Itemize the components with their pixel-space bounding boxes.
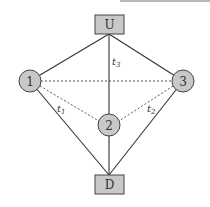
node-3: 3 <box>172 70 194 92</box>
edge-u-3 <box>109 34 183 81</box>
node-1-label: 1 <box>26 75 34 89</box>
solid-edges <box>30 34 183 175</box>
node-1: 1 <box>19 70 41 92</box>
node-2: 2 <box>98 114 120 136</box>
edge-u-1 <box>30 34 109 81</box>
edge-1-d <box>30 81 109 175</box>
edge-label-t3: t3 <box>112 56 121 69</box>
node-u-label: U <box>104 18 114 32</box>
edge-label-t2: t2 <box>147 103 156 116</box>
node-3-label: 3 <box>179 75 187 89</box>
node-u: U <box>95 15 124 34</box>
node-2-label: 2 <box>105 119 113 133</box>
node-d-label: D <box>105 178 115 192</box>
node-d: D <box>95 175 124 194</box>
network-diagram: U 1 3 2 D t3 t1 t2 <box>0 0 210 207</box>
